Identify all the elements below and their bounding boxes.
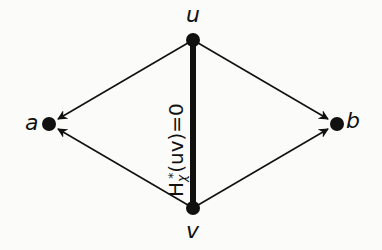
- edge-label-homology: Hχ*(uv)=0: [166, 103, 188, 197]
- node-label-u: u: [186, 4, 200, 26]
- node-label-b: b: [346, 110, 360, 132]
- edge-label-base: H: [164, 182, 188, 197]
- edge-label-superscript: *: [166, 173, 180, 179]
- node-label-a: a: [25, 112, 38, 134]
- node-a: [42, 117, 56, 131]
- node-b: [330, 117, 344, 131]
- edge-label-rest: (uv)=0: [164, 103, 188, 173]
- node-label-v: v: [186, 220, 199, 242]
- graph-canvas: [0, 0, 382, 250]
- edge-v-to-b: [193, 129, 328, 208]
- node-v: [186, 201, 200, 215]
- edge-u-to-b: [193, 40, 328, 119]
- node-u: [186, 33, 200, 47]
